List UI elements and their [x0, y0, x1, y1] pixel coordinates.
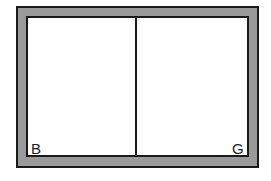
compartment-label-right: G	[232, 141, 244, 156]
compartment-divider	[135, 16, 137, 157]
inner-area	[26, 16, 249, 157]
compartment-label-left: B	[31, 141, 41, 156]
